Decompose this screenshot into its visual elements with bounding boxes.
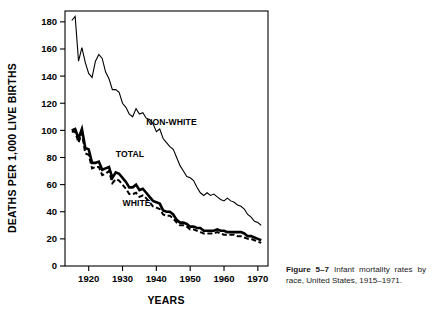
infant-mortality-line-chart: 020406080100120140160180 192019301940195…	[0, 0, 275, 325]
y-tick-label: 180	[41, 16, 57, 27]
chart-figure: 020406080100120140160180 192019301940195…	[0, 0, 275, 325]
x-axis-tick-labels: 192019301940195019601970	[78, 273, 268, 284]
figure-caption: Figure 5–7 Infant mortality rates by rac…	[286, 264, 426, 286]
y-axis-title: DEATHS PER 1,000 LIVE BIRTHS	[6, 63, 18, 233]
x-tick-label: 1940	[146, 273, 167, 284]
x-tick-label: 1970	[247, 273, 268, 284]
y-tick-label: 80	[46, 152, 57, 163]
figure-panel: 020406080100120140160180 192019301940195…	[0, 0, 433, 325]
x-tick-label: 1930	[112, 273, 133, 284]
y-axis-tick-labels: 020406080100120140160180	[41, 16, 57, 271]
y-tick-label: 140	[41, 71, 57, 82]
y-tick-label: 20	[46, 233, 57, 244]
x-tick-label: 1920	[78, 273, 99, 284]
plot-frame	[65, 11, 268, 266]
series-lines	[72, 16, 261, 243]
figure-number: Figure 5–7	[286, 265, 329, 274]
series-label-total: TOTAL	[116, 149, 144, 159]
y-tick-label: 100	[41, 125, 57, 136]
x-axis-ticks	[89, 266, 258, 271]
y-axis-ticks	[60, 22, 65, 266]
y-tick-label: 60	[46, 179, 57, 190]
x-tick-label: 1950	[180, 273, 201, 284]
x-axis-title: YEARS	[147, 294, 184, 306]
series-label-non-white: NON-WHITE	[146, 117, 197, 127]
series-line-white	[72, 132, 261, 243]
y-tick-label: 40	[46, 206, 57, 217]
x-tick-label: 1960	[213, 273, 234, 284]
y-tick-label: 160	[41, 43, 57, 54]
series-label-white: WHITE	[123, 198, 151, 208]
series-line-total	[72, 129, 261, 240]
y-tick-label: 120	[41, 98, 57, 109]
y-tick-label: 0	[52, 260, 57, 271]
